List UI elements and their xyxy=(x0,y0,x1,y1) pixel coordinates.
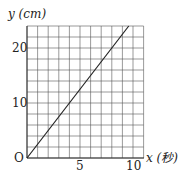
chart-plot xyxy=(0,0,185,175)
origin-label: O xyxy=(14,152,24,164)
y-tick-10: 10 xyxy=(12,97,27,109)
y-axis-label: y (cm) xyxy=(8,8,46,20)
x-tick-5: 5 xyxy=(76,160,84,172)
x-axis-label: x (秒) xyxy=(146,152,178,164)
x-tick-10: 10 xyxy=(126,160,141,172)
grid-lines xyxy=(27,26,144,158)
y-tick-20: 20 xyxy=(12,42,27,54)
